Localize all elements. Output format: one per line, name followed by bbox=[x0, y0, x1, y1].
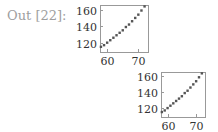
y-tick-label: 140 bbox=[76, 21, 97, 34]
data-point-marker bbox=[161, 111, 163, 113]
data-point-marker bbox=[186, 90, 188, 92]
data-point-marker bbox=[181, 95, 183, 97]
data-point-marker bbox=[192, 83, 194, 85]
data-point-marker bbox=[172, 102, 174, 104]
data-point-marker bbox=[198, 76, 200, 78]
data-point-marker bbox=[166, 107, 168, 109]
x-tick-label: 60 bbox=[101, 55, 115, 66]
data-point-marker bbox=[169, 105, 171, 107]
data-point-marker bbox=[143, 5, 145, 7]
data-point-marker bbox=[131, 20, 133, 22]
data-point-marker bbox=[128, 23, 130, 25]
data-point-marker bbox=[178, 97, 180, 99]
data-point-marker bbox=[112, 37, 114, 39]
data-point-marker bbox=[109, 39, 111, 41]
y-tick-label: 160 bbox=[76, 5, 97, 18]
data-point-marker bbox=[189, 86, 191, 88]
data-point-marker bbox=[100, 46, 102, 48]
y-tick-label: 120 bbox=[76, 38, 97, 51]
x-tick-label: 70 bbox=[190, 120, 204, 132]
scatter-plot-2: 1201401606070 bbox=[130, 66, 218, 132]
x-tick-label: 60 bbox=[162, 120, 176, 132]
data-point-marker bbox=[201, 72, 203, 74]
y-tick-label: 160 bbox=[137, 71, 158, 84]
data-point-marker bbox=[103, 44, 105, 46]
data-point-marker bbox=[118, 32, 120, 34]
data-point-marker bbox=[175, 100, 177, 102]
x-tick-label: 70 bbox=[132, 55, 146, 66]
plot-frame bbox=[162, 73, 206, 118]
data-point-marker bbox=[106, 41, 108, 43]
data-point-marker bbox=[122, 29, 124, 31]
data-point-marker bbox=[125, 26, 127, 28]
plot-frame bbox=[101, 6, 149, 53]
scatter-plot-1: 1201401606070 bbox=[70, 0, 160, 66]
output-prompt-label: Out [22]: bbox=[7, 8, 66, 23]
y-tick-label: 120 bbox=[137, 103, 158, 116]
data-point-marker bbox=[184, 92, 186, 94]
data-point-marker bbox=[137, 13, 139, 15]
data-point-marker bbox=[140, 9, 142, 11]
data-point-marker bbox=[115, 34, 117, 36]
data-point-marker bbox=[164, 109, 166, 111]
data-point-marker bbox=[134, 17, 136, 19]
data-point-marker bbox=[195, 80, 197, 82]
y-tick-label: 140 bbox=[137, 87, 158, 100]
